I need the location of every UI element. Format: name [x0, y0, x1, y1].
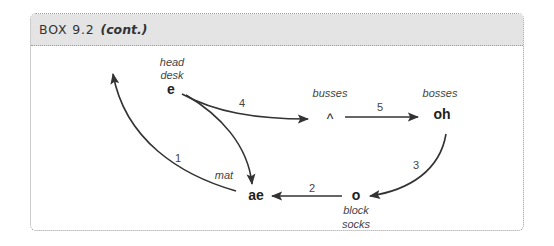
edge-label-5: 5	[377, 101, 383, 113]
edge-label-4: 4	[239, 97, 245, 109]
word-desk: desk	[160, 69, 183, 81]
edge-label-1: 1	[175, 152, 181, 164]
vowel-shift-diagram	[0, 0, 554, 246]
arrow-3	[370, 134, 446, 196]
node-ae: ae	[248, 187, 264, 203]
node-caret: ^	[327, 111, 334, 127]
edge-label-3: 3	[413, 159, 419, 171]
word-bosses: bosses	[423, 87, 458, 99]
word-block: block	[343, 204, 369, 216]
edge-label-2: 2	[309, 182, 315, 194]
word-mat: mat	[215, 169, 233, 181]
word-socks: socks	[342, 218, 370, 230]
node-o: o	[352, 187, 361, 203]
word-head: head	[160, 56, 184, 68]
word-busses: busses	[313, 87, 348, 99]
node-oh: oh	[433, 106, 450, 122]
node-e: e	[167, 81, 175, 97]
